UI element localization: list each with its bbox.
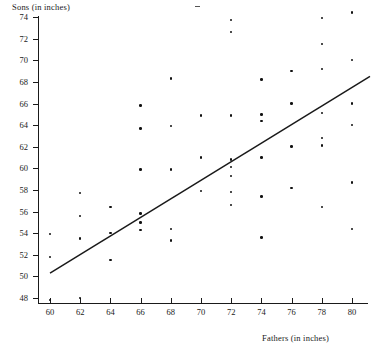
data-point: [230, 204, 233, 207]
x-tick-label-72: 72: [221, 307, 241, 317]
x-tick-label-64: 64: [100, 307, 120, 317]
data-point: [49, 233, 52, 236]
y-tick-label-60: 60: [12, 163, 28, 173]
x-tick-64: [110, 298, 111, 304]
x-tick-74: [261, 298, 262, 304]
y-tick-label-58: 58: [12, 185, 28, 195]
x-tick-70: [201, 298, 202, 304]
y-tick-label-50: 50: [12, 271, 28, 281]
x-axis-line: [38, 303, 368, 304]
y-tick-label-64: 64: [12, 120, 28, 130]
y-tick-74: [33, 17, 39, 18]
data-point: [260, 195, 263, 198]
y-tick-52: [33, 255, 39, 256]
x-axis-title: Fathers (in inches): [262, 333, 329, 343]
x-tick-label-78: 78: [312, 307, 332, 317]
data-point: [351, 11, 354, 14]
y-tick-50: [33, 276, 39, 277]
data-point: [321, 68, 324, 71]
data-point: [321, 206, 324, 209]
data-point: [230, 31, 233, 34]
data-point: [109, 232, 112, 235]
x-tick-label-70: 70: [191, 307, 211, 317]
x-tick-68: [171, 298, 172, 304]
data-point: [139, 221, 142, 224]
data-point: [200, 114, 203, 117]
y-tick-66: [33, 104, 39, 105]
x-tick-78: [322, 298, 323, 304]
y-tick-54: [33, 233, 39, 234]
x-tick-label-62: 62: [70, 307, 90, 317]
y-tick-label-68: 68: [12, 77, 28, 87]
x-tick-66: [141, 298, 142, 304]
data-point: [290, 70, 293, 73]
y-tick-label-66: 66: [12, 99, 28, 109]
data-point: [139, 127, 142, 130]
data-point: [139, 229, 142, 232]
data-point: [351, 124, 354, 127]
data-point: [351, 181, 354, 184]
data-point: [49, 256, 52, 259]
y-tick-58: [33, 190, 39, 191]
x-tick-label-74: 74: [251, 307, 271, 317]
data-point: [230, 19, 233, 22]
y-tick-68: [33, 82, 39, 83]
data-point: [170, 125, 173, 128]
data-point: [260, 156, 263, 159]
y-tick-label-56: 56: [12, 207, 28, 217]
x-tick-80: [352, 298, 353, 304]
data-point: [321, 144, 324, 147]
data-point: [109, 259, 112, 262]
x-tick-76: [292, 298, 293, 304]
y-tick-64: [33, 125, 39, 126]
data-point: [321, 112, 324, 115]
data-point: [79, 215, 82, 218]
y-tick-label-54: 54: [12, 228, 28, 238]
y-tick-62: [33, 147, 39, 148]
y-axis-line: [38, 16, 39, 304]
y-tick-label-62: 62: [12, 142, 28, 152]
data-point: [170, 77, 173, 80]
y-tick-label-72: 72: [12, 34, 28, 44]
data-point: [351, 102, 354, 105]
y-tick-label-74: 74: [12, 12, 28, 22]
data-point: [79, 237, 82, 240]
data-point: [230, 166, 233, 169]
data-point: [260, 120, 263, 123]
x-tick-label-80: 80: [342, 307, 362, 317]
data-point: [290, 145, 293, 148]
y-tick-label-52: 52: [12, 250, 28, 260]
data-point: [351, 59, 354, 62]
data-point: [290, 102, 293, 105]
data-point: [230, 114, 233, 117]
y-tick-label-48: 48: [12, 293, 28, 303]
data-point: [139, 104, 142, 107]
y-axis-title: Sons (in inches): [12, 2, 70, 12]
y-tick-label-70: 70: [12, 55, 28, 65]
data-point: [139, 168, 142, 171]
stray-tick-mark: [195, 6, 200, 7]
data-point: [321, 137, 324, 140]
data-point: [230, 158, 233, 161]
x-tick-label-66: 66: [131, 307, 151, 317]
y-tick-72: [33, 39, 39, 40]
scatter-plot: Sons (in inches) Fathers (in inches) 485…: [0, 0, 382, 351]
data-point: [200, 156, 203, 159]
y-tick-56: [33, 212, 39, 213]
data-point: [139, 212, 142, 215]
data-point: [321, 17, 324, 20]
x-tick-label-76: 76: [282, 307, 302, 317]
data-point: [170, 239, 173, 242]
data-point: [109, 206, 112, 209]
data-point: [230, 191, 233, 194]
y-tick-70: [33, 60, 39, 61]
data-point: [170, 168, 173, 171]
y-tick-60: [33, 168, 39, 169]
x-tick-label-68: 68: [161, 307, 181, 317]
x-tick-72: [231, 298, 232, 304]
data-point: [79, 192, 82, 195]
data-point: [290, 187, 293, 190]
data-point: [260, 78, 263, 81]
data-point: [170, 228, 173, 231]
data-point: [351, 228, 354, 231]
